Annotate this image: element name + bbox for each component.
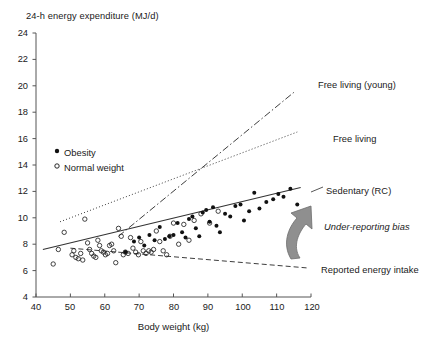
- data-point: [239, 203, 243, 207]
- data-point: [172, 233, 176, 237]
- data-point: [78, 251, 82, 255]
- data-point: [72, 249, 76, 253]
- data-point: [167, 234, 171, 238]
- data-point: [96, 238, 100, 242]
- data-point: [81, 258, 85, 262]
- data-point: [137, 236, 141, 240]
- data-point: [56, 247, 60, 251]
- data-point: [119, 234, 123, 238]
- under-reporting-bias-arrow: [287, 206, 312, 259]
- legend-marker-obesity: [55, 149, 59, 153]
- data-point: [295, 203, 299, 207]
- data-point: [282, 195, 286, 199]
- data-point: [276, 192, 280, 196]
- data-point: [114, 260, 118, 264]
- data-point: [197, 234, 201, 238]
- data-point: [128, 235, 132, 239]
- data-point: [62, 230, 66, 234]
- data-point: [208, 220, 212, 224]
- trend-lines: [43, 92, 308, 268]
- data-point: [214, 224, 218, 228]
- trend-line-reported-energy-intake: [70, 248, 307, 268]
- data-point: [187, 217, 191, 221]
- data-point: [116, 226, 120, 230]
- data-point: [192, 218, 196, 222]
- chart-figure: 24-h energy expenditure (MJ/d) Body weig…: [0, 0, 443, 348]
- data-point: [123, 250, 127, 254]
- series-obesity-points: [123, 187, 299, 254]
- data-point: [132, 240, 136, 244]
- data-point: [184, 236, 188, 240]
- data-point: [151, 247, 155, 251]
- data-point: [194, 226, 198, 230]
- trend-line-free-living-young: [119, 92, 294, 236]
- data-point: [247, 209, 251, 213]
- data-point: [180, 230, 184, 234]
- data-point: [288, 187, 292, 191]
- data-point: [257, 207, 261, 211]
- data-point: [161, 249, 165, 253]
- data-point: [233, 204, 237, 208]
- trend-line-sedentary-rc: [43, 187, 301, 249]
- data-point: [264, 200, 268, 204]
- sedentary-leader-line: [311, 187, 323, 192]
- data-point: [139, 239, 143, 243]
- data-point: [204, 208, 208, 212]
- data-point: [223, 212, 227, 216]
- data-point: [141, 249, 145, 253]
- data-point: [51, 262, 55, 266]
- data-point: [147, 233, 151, 237]
- data-point: [228, 214, 232, 218]
- data-point: [85, 241, 89, 245]
- data-point: [158, 239, 162, 243]
- trend-line-free-living: [60, 132, 297, 222]
- data-point: [111, 249, 115, 253]
- data-point: [97, 243, 101, 247]
- data-point: [211, 205, 215, 209]
- data-point: [153, 238, 157, 242]
- data-point: [187, 238, 191, 242]
- y-axis-ticks: [33, 33, 37, 297]
- plot-area: [0, 0, 443, 348]
- data-point: [271, 197, 275, 201]
- data-point: [242, 218, 246, 222]
- legend-marker-normal-weight: [55, 164, 59, 168]
- data-point: [176, 221, 180, 225]
- data-point: [154, 229, 158, 233]
- axes: [33, 33, 312, 297]
- data-point: [131, 246, 135, 250]
- data-point: [136, 253, 140, 257]
- data-point: [190, 214, 194, 218]
- data-point: [201, 211, 205, 215]
- data-point: [218, 230, 222, 234]
- data-point: [216, 209, 220, 213]
- data-point: [83, 217, 87, 221]
- data-point: [163, 237, 167, 241]
- x-axis-ticks: [36, 294, 311, 298]
- data-point: [158, 225, 162, 229]
- series-normal-weight-points: [51, 209, 220, 266]
- data-point: [142, 244, 146, 248]
- data-point: [252, 191, 256, 195]
- data-point: [144, 251, 148, 255]
- data-point: [171, 221, 175, 225]
- data-point: [176, 242, 180, 246]
- data-point: [182, 222, 186, 226]
